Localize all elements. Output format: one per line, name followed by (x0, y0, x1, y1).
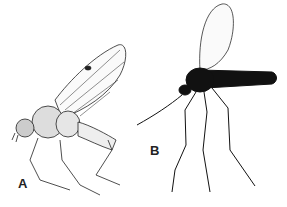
panel-label-b: B (150, 143, 159, 158)
insect-illustration (0, 0, 287, 207)
figure: A B (0, 0, 287, 207)
fly-b-drawing (137, 4, 277, 192)
fly-a-drawing (12, 45, 126, 195)
panel-label-a: A (18, 176, 27, 191)
